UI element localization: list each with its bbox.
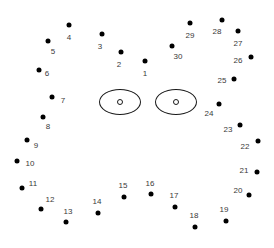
dot-21[interactable] [255,170,260,175]
dot-label-7: 7 [61,97,65,105]
dot-6[interactable] [37,68,42,73]
dot-label-16: 16 [146,180,155,188]
dot-to-dot-puzzle-canvas: 1234567891011121314151617181920212223242… [0,0,274,248]
dot-label-28: 28 [213,28,222,36]
dot-label-20: 20 [234,187,243,195]
dot-11[interactable] [20,186,25,191]
dot-12[interactable] [39,207,44,212]
right-eye-pupil [173,99,179,105]
dot-22[interactable] [256,139,261,144]
dot-4[interactable] [67,23,72,28]
dot-10[interactable] [15,159,20,164]
dot-20[interactable] [247,193,252,198]
dot-label-6: 6 [45,70,49,78]
dot-label-26: 26 [234,57,243,65]
dot-label-5: 5 [51,48,55,56]
dot-label-14: 14 [93,198,102,206]
dot-label-15: 15 [119,182,128,190]
dot-label-30: 30 [174,53,183,61]
dot-23[interactable] [238,123,243,128]
dot-9[interactable] [25,138,30,143]
dot-7[interactable] [50,95,55,100]
dot-label-19: 19 [220,206,229,214]
dot-label-3: 3 [98,43,102,51]
dot-14[interactable] [96,211,101,216]
dot-label-4: 4 [67,34,71,42]
left-eye-pupil [117,99,123,105]
dot-15[interactable] [122,195,127,200]
dot-28[interactable] [220,18,225,23]
dot-2[interactable] [119,50,124,55]
dot-19[interactable] [224,219,229,224]
dot-label-2: 2 [117,61,121,69]
dot-30[interactable] [170,44,175,49]
dot-26[interactable] [249,55,254,60]
dot-label-25: 25 [218,77,227,85]
dot-25[interactable] [232,77,237,82]
dot-3[interactable] [100,32,105,37]
dot-label-23: 23 [224,126,233,134]
dot-17[interactable] [173,205,178,210]
dot-16[interactable] [149,192,154,197]
dot-label-1: 1 [143,70,147,78]
dot-18[interactable] [193,225,198,230]
dot-13[interactable] [64,220,69,225]
dot-label-29: 29 [186,32,195,40]
dot-label-24: 24 [205,110,214,118]
dot-label-18: 18 [190,212,199,220]
dot-label-11: 11 [29,180,37,188]
dot-label-8: 8 [46,123,50,131]
dot-5[interactable] [46,39,51,44]
dot-label-9: 9 [34,142,38,150]
dot-29[interactable] [188,21,193,26]
dot-24[interactable] [217,102,222,107]
dot-label-22: 22 [241,143,250,151]
dot-label-13: 13 [64,208,73,216]
dot-label-27: 27 [234,40,243,48]
dot-label-17: 17 [170,192,179,200]
dot-label-10: 10 [26,160,35,168]
dot-8[interactable] [41,115,46,120]
dot-label-21: 21 [240,167,249,175]
dot-label-12: 12 [46,196,55,204]
dot-27[interactable] [236,29,241,34]
dot-1[interactable] [143,59,148,64]
